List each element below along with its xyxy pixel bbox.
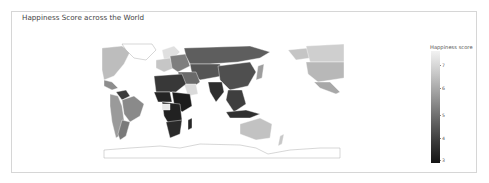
chart-title: Happiness Score across the World	[22, 13, 144, 22]
region-north-africa	[154, 74, 186, 92]
colorbar-tick-7: 7	[442, 63, 445, 68]
world-map[interactable]	[100, 42, 345, 164]
colorbar-tick-3: 3	[442, 158, 445, 163]
region-australia	[240, 118, 272, 140]
colorbar-tick-6: 6	[442, 86, 445, 91]
colorbar-tick-4: 4	[442, 136, 445, 141]
region-india	[208, 82, 224, 102]
region-usa	[306, 62, 344, 82]
region-madagascar	[188, 118, 192, 130]
region-indonesia	[226, 110, 260, 118]
region-canada	[306, 44, 344, 62]
region-alaska	[288, 48, 310, 60]
region-central-america	[104, 80, 118, 90]
region-brazil	[122, 96, 144, 122]
region-southern-africa	[166, 120, 182, 138]
region-southeast-asia	[226, 90, 246, 112]
region-new-zealand	[278, 134, 284, 146]
region-japan	[256, 64, 264, 80]
colorbar-tick-5: 5	[442, 113, 445, 118]
region-west-africa	[154, 92, 172, 102]
region-mexico	[314, 82, 340, 94]
region-russia	[184, 46, 270, 64]
colorbar	[431, 51, 440, 163]
region-china	[218, 62, 256, 90]
region-antarctica	[104, 144, 340, 158]
colorbar-title: Happiness score	[430, 44, 473, 50]
region-east-north-america	[102, 46, 130, 80]
region-gabon	[162, 104, 170, 110]
